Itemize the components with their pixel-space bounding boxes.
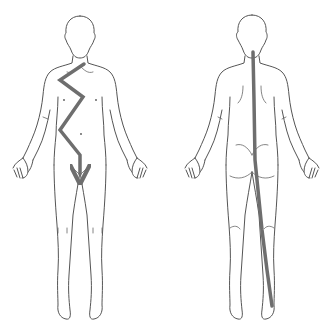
front-torso-outline: [23, 56, 137, 158]
front-navel: [80, 133, 82, 135]
body-diagram: [0, 0, 324, 334]
front-left-hand: [13, 158, 33, 178]
front-left-nipple: [63, 99, 65, 101]
front-zigzag-pain-path: [60, 64, 84, 174]
front-right-hand: [127, 158, 147, 178]
front-right-nipple: [95, 99, 97, 101]
back-left-hand: [185, 158, 205, 178]
back-right-hand: [299, 158, 319, 178]
front-head-outline: [65, 16, 95, 58]
body-figures: [0, 0, 324, 334]
front-legs-outline: [54, 165, 106, 319]
